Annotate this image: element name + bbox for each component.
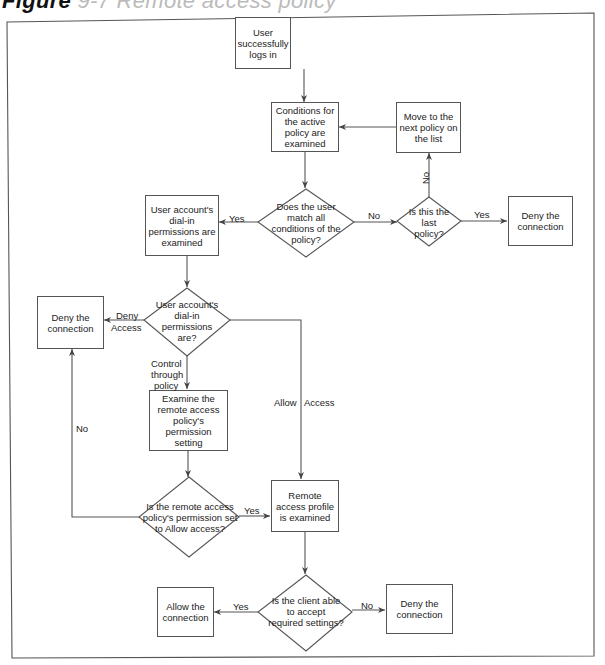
- node-allow-final: Allow the connection: [157, 587, 214, 637]
- node-deny-top: Deny the connection: [508, 196, 573, 246]
- label-last-no: No: [420, 172, 431, 184]
- node-deny-final-text: Deny the connection: [389, 598, 450, 620]
- node-deny-left-text: Deny the connection: [40, 312, 101, 334]
- node-next-policy-text: Move to the next policy on the list: [399, 111, 458, 144]
- node-profile-examined-text: Remote access profile is examined: [274, 490, 336, 523]
- label-control-3: policy: [154, 380, 178, 391]
- decision-ra-permission-label: Is the remote access policy's permission…: [142, 501, 238, 534]
- label-client-yes: Yes: [233, 601, 249, 612]
- decision-dialin-text: User account's dial-in permissions are?: [154, 291, 220, 351]
- node-examine-ra-policy: Examine the remote access policy's permi…: [149, 390, 228, 451]
- node-next-policy: Move to the next policy on the list: [396, 102, 461, 153]
- label-last-yes: Yes: [474, 209, 490, 220]
- node-conditions-text: Conditions for the active policy are exa…: [274, 105, 336, 149]
- node-start-text: User successfully logs in: [237, 27, 288, 60]
- node-start: User successfully logs in: [235, 17, 291, 69]
- node-dialin-examined-text: User account's dial-in permissions are e…: [148, 204, 216, 248]
- label-ra-no: No: [76, 423, 88, 434]
- label-deny-access-2: Access: [111, 322, 142, 333]
- label-control-1: Control: [151, 358, 182, 369]
- label-allow-access-2: Access: [304, 397, 335, 408]
- node-conditions: Conditions for the active policy are exa…: [271, 102, 339, 152]
- label-ra-yes: Yes: [244, 505, 260, 516]
- decision-match-label: Does the user match all conditions of th…: [268, 201, 344, 245]
- decision-ra-permission-text: Is the remote access policy's permission…: [142, 487, 238, 547]
- node-deny-top-text: Deny the connection: [511, 210, 570, 232]
- decision-client-text: Is the client able to accept required se…: [268, 588, 344, 634]
- label-match-no: No: [368, 210, 380, 221]
- label-allow-access-1: Allow: [274, 397, 297, 408]
- decision-last-policy-label: Is this the last policy?: [406, 206, 452, 239]
- node-deny-left: Deny the connection: [37, 296, 104, 349]
- label-deny-access-1: Deny: [116, 310, 138, 321]
- node-examine-ra-policy-text: Examine the remote access policy's permi…: [152, 393, 225, 448]
- node-dialin-examined: User account's dial-in permissions are e…: [145, 195, 219, 256]
- label-control-2: through: [151, 369, 183, 380]
- decision-last-policy-text: Is this the last policy?: [406, 203, 452, 241]
- decision-dialin-label: User account's dial-in permissions are?: [154, 299, 220, 343]
- decision-client-label: Is the client able to accept required se…: [268, 595, 344, 628]
- decision-match-text: Does the user match all conditions of th…: [268, 195, 344, 251]
- node-allow-final-text: Allow the connection: [160, 601, 211, 623]
- label-match-yes: Yes: [229, 213, 245, 224]
- label-client-no: No: [361, 600, 373, 611]
- node-deny-final: Deny the connection: [386, 584, 453, 634]
- node-profile-examined: Remote access profile is examined: [271, 480, 339, 532]
